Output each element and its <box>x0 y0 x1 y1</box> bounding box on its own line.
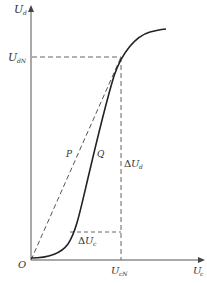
curve-q <box>31 29 166 258</box>
label-q: Q <box>97 149 105 159</box>
y-axis-label: U d <box>14 3 27 16</box>
svg-text:c: c <box>93 240 97 247</box>
udn-label: U dN <box>8 51 27 64</box>
origin-label: O <box>18 259 26 270</box>
ucn-label: U cN <box>111 265 128 277</box>
svg-text:cN: cN <box>119 270 128 277</box>
svg-text:d: d <box>139 163 143 170</box>
diagram-canvas: U d U dN O U cN U c P Q Δ U d Δ U c <box>0 0 207 283</box>
delta-uc-label: Δ U c <box>78 235 97 247</box>
x-axis-label: U c <box>193 265 204 277</box>
svg-text:d: d <box>23 9 27 16</box>
line-p <box>31 57 121 260</box>
svg-text:dN: dN <box>17 57 27 64</box>
delta-ud-label: Δ U d <box>124 158 143 170</box>
svg-text:c: c <box>200 270 204 277</box>
label-p: P <box>65 149 73 159</box>
